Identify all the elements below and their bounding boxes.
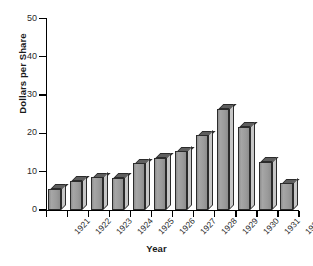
bar [196, 131, 209, 210]
bar-front-face [48, 189, 61, 210]
bar-side-face [103, 173, 108, 210]
bar-side-face [208, 131, 213, 210]
x-axis-tick [130, 211, 131, 217]
bar-top-face-inner [219, 104, 236, 109]
bar-side-face [250, 122, 255, 210]
y-axis-title: Dollars per Share [17, 14, 28, 134]
x-axis-tick [277, 211, 278, 217]
bar [154, 153, 167, 210]
bar-top-face-inner [177, 147, 194, 152]
x-axis-tick-label: 1921 [72, 216, 92, 236]
bar [70, 176, 83, 210]
bar-front-face [238, 127, 251, 210]
x-axis-title: Year [0, 243, 313, 254]
bar-side-face [229, 104, 234, 210]
bar [175, 147, 188, 210]
bar [48, 184, 61, 210]
bar-front-face [112, 178, 125, 210]
x-axis-tick [214, 211, 215, 217]
x-axis-tick-label: 1932 [303, 216, 313, 236]
bar-front-face [196, 135, 209, 210]
bar-side-face [82, 176, 87, 210]
y-axis-tick [39, 94, 46, 95]
bar [133, 159, 146, 210]
x-axis-tick-label: 1924 [135, 216, 155, 236]
y-axis-tick [39, 133, 46, 134]
y-axis-tick [39, 18, 46, 19]
x-axis-tick-label: 1931 [282, 216, 302, 236]
bar-side-face [166, 153, 171, 210]
bar-front-face [217, 109, 230, 210]
y-axis-line [46, 18, 47, 211]
x-axis-tick-label: 1928 [219, 216, 239, 236]
x-axis-tick [193, 211, 194, 217]
y-axis-tick [39, 56, 46, 57]
bar [217, 104, 230, 210]
x-axis-tick [109, 211, 110, 217]
bar-side-face [272, 157, 277, 210]
x-axis-tick [67, 211, 68, 217]
bar-front-face [280, 183, 293, 210]
bar-front-face [91, 177, 104, 210]
bar-side-face [61, 184, 66, 210]
bar-top-face-inner [198, 131, 215, 136]
bar [259, 157, 272, 210]
bar-chart-figure: 01020304050 1921192219231924192519261927… [0, 0, 313, 266]
x-axis-tick [172, 211, 173, 217]
bar [280, 179, 293, 210]
x-axis-tick-label: 1926 [177, 216, 197, 236]
x-axis-tick-label: 1930 [261, 216, 281, 236]
bar-front-face [70, 181, 83, 210]
x-axis-tick-label: 1929 [240, 216, 260, 236]
bar-top-face-inner [240, 122, 257, 127]
x-axis-tick [151, 211, 152, 217]
bar-front-face [259, 162, 272, 210]
bar [112, 173, 125, 210]
x-axis-tick-label: 1925 [156, 216, 176, 236]
x-axis-tick [88, 211, 89, 217]
x-axis-tick [235, 211, 236, 217]
bar [91, 173, 104, 210]
x-axis-tick [256, 211, 257, 217]
bar-front-face [175, 151, 188, 210]
y-axis-tick-label: 0 [0, 204, 37, 214]
x-axis-tick [46, 211, 47, 217]
x-axis-tick-label: 1923 [114, 216, 134, 236]
bar-side-face [187, 147, 192, 210]
bar-side-face [124, 173, 129, 210]
x-axis-tick-label: 1922 [93, 216, 113, 236]
bar [238, 122, 251, 210]
bar-side-face [145, 159, 150, 210]
y-axis-tick-label: 10 [0, 166, 37, 176]
x-axis-tick-label: 1927 [198, 216, 218, 236]
bar-front-face [133, 163, 146, 210]
x-axis-tick [298, 211, 299, 217]
bar-side-face [293, 179, 298, 210]
plot-area: 01020304050 1921192219231924192519261927… [0, 0, 313, 266]
y-axis-tick [39, 171, 46, 172]
bar-front-face [154, 158, 167, 210]
